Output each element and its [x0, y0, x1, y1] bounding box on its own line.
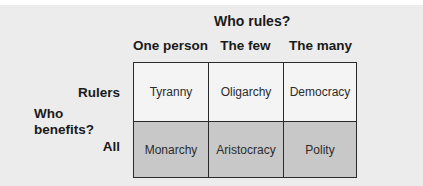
column-axis-title: Who rules? [214, 13, 290, 29]
row-header-rulers: Rulers [30, 85, 120, 100]
cell-monarchy: Monarchy [134, 121, 208, 177]
government-types-grid: Tyranny Oligarchy Democracy Monarchy Ari… [133, 62, 357, 178]
cell-aristocracy: Aristocracy [208, 121, 283, 177]
row-header-all: All [30, 139, 120, 154]
cell-democracy: Democracy [283, 63, 356, 121]
cell-tyranny: Tyranny [134, 63, 208, 121]
row-axis-title-text: Who benefits? [34, 106, 96, 138]
cell-polity: Polity [283, 121, 356, 177]
column-header-one-person: One person [133, 38, 208, 53]
column-header-the-many: The many [283, 38, 358, 53]
cell-oligarchy: Oligarchy [208, 63, 283, 121]
row-axis-title: Who benefits? [34, 106, 96, 138]
column-header-the-few: The few [208, 38, 283, 53]
diagram-panel: Who rules? One person The few The many R… [0, 5, 423, 186]
